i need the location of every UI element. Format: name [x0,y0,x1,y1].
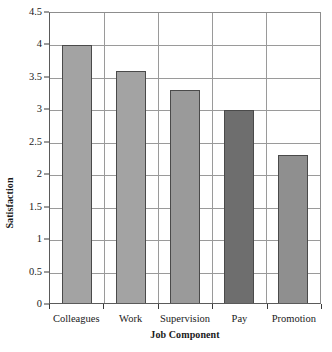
y-axis-tick-label: 3.5 [29,72,42,83]
x-axis-tick-label: Work [103,310,157,328]
y-axis-tick-label: 4.5 [29,7,42,18]
bar-colleagues [62,45,92,303]
x-axis-tick-mark [49,304,50,309]
bar-slot [50,13,104,303]
plot-area [49,12,321,304]
y-axis-tick-label: 0 [37,299,42,310]
x-axis-tick-marks [49,304,321,309]
bar-series [50,13,320,303]
y-axis-tick-label: 0.5 [29,266,42,277]
x-axis-tick-label: Supervision [158,310,212,328]
x-axis-tick-label: Colleagues [49,310,103,328]
y-axis-tick-label: 4 [37,39,42,50]
bar-pay [224,110,254,303]
x-axis-tick-label: Pay [212,310,266,328]
x-axis-tick-mark [267,304,268,309]
x-axis-tick-mark [212,304,213,309]
y-axis-tick-label: 2.5 [29,137,42,148]
bar-work [116,71,146,303]
y-axis-title-label: Satisfaction [4,177,15,228]
y-axis-tick-label: 1.5 [29,201,42,212]
bar-chart: Satisfaction 00.511.522.533.544.5 Collea… [0,0,332,352]
y-axis-tick-label: 3 [37,104,42,115]
y-axis-tick-label: 2 [37,169,42,180]
bar-slot [212,13,266,303]
y-axis-tick-labels: 00.511.522.533.544.5 [14,12,42,304]
x-axis-tick-labels: ColleaguesWorkSupervisionPayPromotion [49,310,321,328]
bar-supervision [170,90,200,303]
bar-promotion [278,155,308,303]
x-axis-tick-mark [103,304,104,309]
bar-slot [158,13,212,303]
y-axis-tick-label: 1 [37,234,42,245]
x-axis-tick-mark [321,304,322,309]
bar-slot [104,13,158,303]
bar-slot [266,13,320,303]
x-axis-tick-mark [158,304,159,309]
x-axis-title: Job Component [49,329,321,340]
x-axis-tick-label: Promotion [267,310,321,328]
